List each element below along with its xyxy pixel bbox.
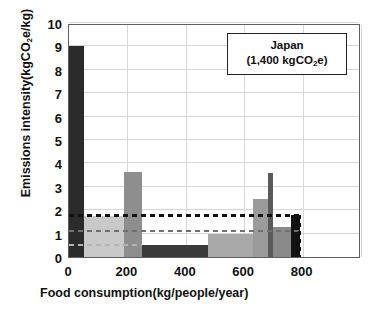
- vertical-marker-japan-total-marker: [298, 215, 301, 257]
- y-tick-4: 4: [36, 158, 62, 171]
- annotation-line-2-pre: (1,400 kgCO: [246, 54, 312, 66]
- gridline-horizontal: [69, 162, 359, 163]
- y-tick-8: 8: [36, 65, 62, 78]
- annotation-line-2: (1,400 kgCO2e): [230, 53, 344, 69]
- x-tick-800: 800: [279, 265, 325, 278]
- y-tick-10: 10: [36, 18, 62, 31]
- bar-fish: [253, 199, 268, 258]
- gridline-horizontal: [69, 209, 359, 210]
- x-tick-400: 400: [162, 265, 208, 278]
- y-axis-title-post: e/kg): [19, 9, 33, 38]
- y-tick-9: 9: [36, 41, 62, 54]
- y-tick-3: 3: [36, 182, 62, 195]
- y-tick-7: 7: [36, 88, 62, 101]
- y-axis-title-sub: 2: [25, 38, 34, 42]
- reference-line-overall-average: [69, 214, 300, 217]
- reference-line-mid-average: [69, 230, 300, 232]
- bar-dairy: [84, 216, 125, 257]
- gridline-horizontal: [69, 186, 359, 187]
- y-tick-2: 2: [36, 205, 62, 218]
- annotation-box: Japan (1,400 kgCO2e): [227, 33, 347, 75]
- annotation-line-2-post: e): [317, 54, 327, 66]
- bar-pork: [142, 245, 208, 257]
- bar-beef: [69, 46, 84, 257]
- gridline-vertical: [361, 25, 362, 257]
- y-tick-6: 6: [36, 112, 62, 125]
- y-tick-5: 5: [36, 135, 62, 148]
- y-axis-title: Emissions intensity(kgCO2e/kg): [19, 3, 33, 203]
- x-tick-0: 0: [45, 265, 91, 278]
- gridline-horizontal: [69, 139, 359, 140]
- y-tick-1: 1: [36, 229, 62, 242]
- y-tick-0: 0: [36, 252, 62, 265]
- bar-vegetables: [208, 234, 253, 257]
- annotation-line-1: Japan: [230, 38, 344, 53]
- gridline-vertical: [186, 25, 187, 257]
- gridline-horizontal: [69, 22, 359, 23]
- annotation-line-2-sub: 2: [313, 59, 317, 68]
- y-axis-title-pre: Emissions intensity(kgCO: [19, 42, 33, 197]
- x-axis-title: Food consumption(kg/people/year): [40, 286, 248, 300]
- x-tick-200: 200: [103, 265, 149, 278]
- reference-line-low-average: [69, 244, 142, 246]
- x-tick-600: 600: [220, 265, 266, 278]
- gridline-horizontal: [69, 116, 359, 117]
- gridline-horizontal: [69, 92, 359, 93]
